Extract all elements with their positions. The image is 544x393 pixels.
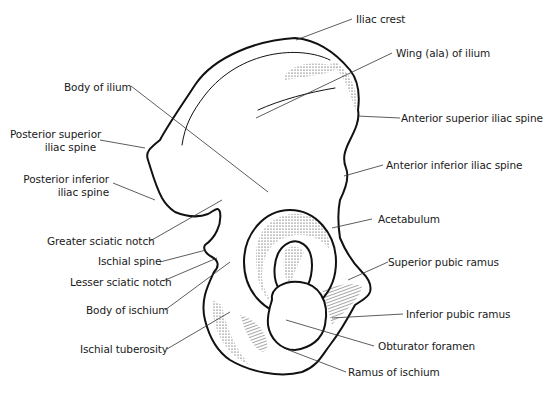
label-ischial-spine: Ischial spine — [98, 255, 161, 268]
label-ischial-tuberosity: Ischial tuberosity — [80, 343, 168, 356]
obturator-foramen-shape — [268, 282, 326, 350]
label-greater-sciatic-notch: Greater sciatic notch — [47, 235, 155, 248]
label-posterior-inferior-iliac-spine: Posterior inferior iliac spine — [20, 173, 109, 199]
bone-outline — [147, 38, 370, 374]
label-body-of-ischium: Body of ischium — [86, 304, 168, 317]
label-wing-of-ilium: Wing (ala) of ilium — [396, 47, 490, 60]
label-lesser-sciatic-notch: Lesser sciatic notch — [70, 276, 172, 289]
label-posterior-superior-iliac-spine: Posterior superior iliac spine — [10, 128, 96, 154]
label-line-2: iliac spine — [10, 141, 96, 154]
label-iliac-crest: Iliac crest — [356, 13, 405, 26]
label-line-2: iliac spine — [20, 186, 109, 199]
label-obturator-foramen: Obturator foramen — [378, 340, 475, 353]
label-anterior-inferior-iliac-spine: Anterior inferior iliac spine — [386, 159, 522, 172]
label-anterior-superior-iliac-spine: Anterior superior iliac spine — [401, 112, 543, 125]
label-superior-pubic-ramus: Superior pubic ramus — [388, 256, 499, 269]
label-acetabulum: Acetabulum — [378, 213, 440, 226]
label-line-1: Posterior inferior — [20, 173, 109, 186]
label-body-of-ilium: Body of ilium — [64, 81, 132, 94]
label-ramus-of-ischium: Ramus of ischium — [348, 366, 440, 379]
label-inferior-pubic-ramus: Inferior pubic ramus — [406, 308, 510, 321]
label-line-1: Posterior superior — [10, 128, 96, 141]
